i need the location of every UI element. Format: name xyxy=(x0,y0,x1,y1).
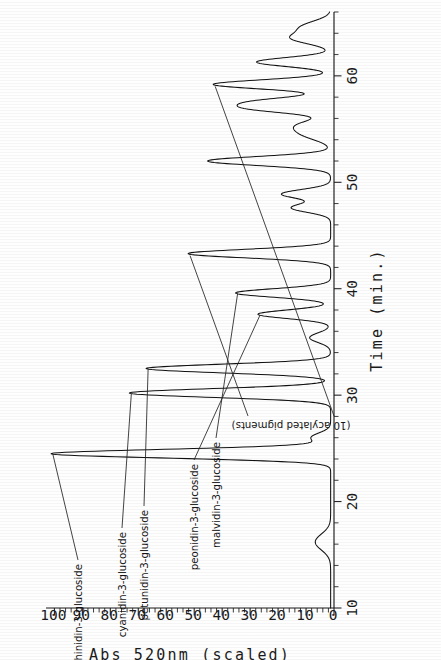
y-tick-label: 20 xyxy=(268,607,285,623)
x-axis-tick-labels: 102030405060 xyxy=(344,67,360,617)
chromatogram-figure: 102030405060 0102030405060708090100 delp… xyxy=(34,0,406,660)
x-tick-label: 30 xyxy=(344,386,360,403)
x-tick-label: 10 xyxy=(344,599,360,616)
y-tick-label: 10 xyxy=(296,607,313,623)
y-tick-label: 50 xyxy=(184,607,201,623)
x-tick-label: 40 xyxy=(344,280,360,297)
chromatogram-svg: 102030405060 0102030405060708090100 delp… xyxy=(34,0,406,660)
y-tick-label: 40 xyxy=(212,607,229,623)
peak-label-malvidin: malvidin-3-glucoside xyxy=(211,442,222,548)
x-tick-label: 60 xyxy=(344,67,360,84)
figure-page: 102030405060 0102030405060708090100 delp… xyxy=(0,0,441,660)
y-axis-tick-labels: 0102030405060708090100 xyxy=(40,607,337,623)
x-axis-ticks xyxy=(334,12,342,608)
peak-annotation-labels: delphinidin-3-glucosidecyanidin-3-glucos… xyxy=(73,420,350,660)
plot-area: 102030405060 0102030405060708090100 delp… xyxy=(34,0,406,660)
peak-label-acylated: (10 acylated pigments) xyxy=(232,420,351,431)
y-tick-label: 0 xyxy=(329,607,338,623)
y-tick-label: 80 xyxy=(101,607,118,623)
x-axis-title: Time (min.) xyxy=(368,248,386,372)
y-tick-label: 30 xyxy=(240,607,257,623)
peak-label-petunidin: petunidin-3-glucoside xyxy=(139,510,150,621)
x-tick-label: 50 xyxy=(344,174,360,191)
y-axis-title: Abs 520nm (scaled) xyxy=(89,646,291,660)
peak-label-cyanidin: cyanidin-3-glucoside xyxy=(117,532,128,637)
y-tick-label: 60 xyxy=(156,607,173,623)
x-tick-label: 20 xyxy=(344,493,360,510)
y-tick-label: 100 xyxy=(40,607,66,623)
peak-label-peonidin: peonidin-3-glucoside xyxy=(189,464,200,570)
peak-label-delphinidin: delphinidin-3-glucoside xyxy=(73,564,84,660)
